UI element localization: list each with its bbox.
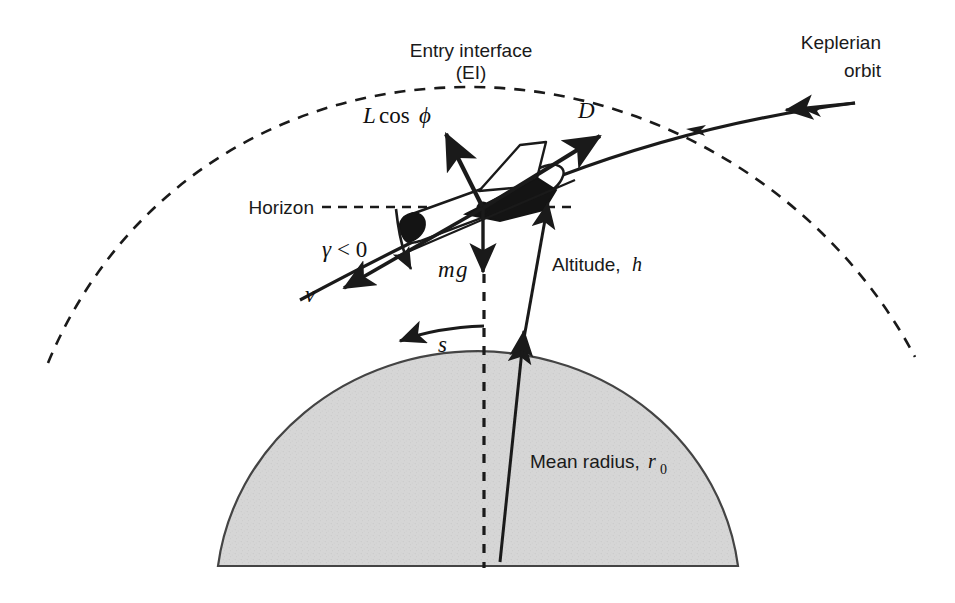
- altitude-label-symbol: h: [632, 253, 642, 275]
- range-label: s: [438, 332, 447, 357]
- entry-interface-label-line2: (EI): [456, 62, 487, 83]
- lift-force-label: L cos ϕ: [362, 103, 431, 128]
- altitude-label-text: Altitude,: [552, 254, 621, 275]
- gamma-relation: < 0: [337, 237, 367, 262]
- mean-radius-label-text: Mean radius,: [530, 451, 640, 472]
- entry-flight-mechanics-diagram: Entry interface (EI) Keplerian orbit L c…: [0, 0, 955, 603]
- entry-interface-label-line1: Entry interface: [410, 40, 533, 61]
- entry-vehicle-lifting-body: [398, 142, 575, 256]
- weight-symbol-m: m: [438, 257, 455, 282]
- mean-radius-label-symbol: r: [648, 450, 656, 472]
- lift-phi-symbol: ϕ: [419, 103, 431, 128]
- altitude-dimension-arrow: [524, 203, 548, 338]
- horizon-label: Horizon: [249, 197, 314, 218]
- altitude-label: Altitude, h: [552, 253, 642, 275]
- keplerian-orbit-label-line2: orbit: [844, 60, 882, 81]
- altitude-arrow-line: [524, 203, 548, 338]
- drag-force-label: D: [577, 98, 595, 123]
- diagram-canvas: Entry interface (EI) Keplerian orbit L c…: [0, 0, 955, 603]
- flight-path-angle-label: γ < 0: [322, 237, 367, 262]
- weight-force-label: m g: [438, 257, 468, 282]
- earth-arc-shape: [218, 351, 738, 566]
- weight-symbol-g: g: [456, 257, 468, 282]
- lift-symbol-L: L: [362, 103, 376, 128]
- velocity-label: v: [305, 282, 316, 307]
- mean-radius-label-subscript: 0: [660, 462, 667, 477]
- earth-surface-shaded-region: [218, 351, 738, 566]
- lift-cos-text: cos: [379, 103, 410, 128]
- gamma-symbol: γ: [322, 237, 332, 262]
- keplerian-orbit-label-line1: Keplerian: [801, 32, 881, 53]
